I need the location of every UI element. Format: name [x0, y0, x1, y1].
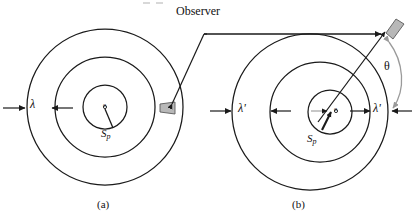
panel-b-caption: (b)	[292, 199, 305, 210]
observer-label: Observer	[176, 5, 220, 17]
observer-leader-a	[172, 34, 207, 104]
wavefront-outer-b	[232, 34, 388, 190]
theta-label: θ	[384, 60, 390, 72]
panel-a-wavelength-label: λ	[30, 98, 35, 110]
panel-a-source-pointer	[105, 109, 113, 128]
panel-a-source-label: Sp	[101, 128, 111, 141]
figure-canvas: Observer λ o Sp (a) λ' λ' o Sp θ (b)	[0, 0, 415, 223]
panel-b-center-label: o	[334, 106, 337, 112]
wavefront-middle-b	[270, 62, 370, 162]
panel-b-wavefronts	[232, 34, 388, 190]
panel-b-source-label: Sp	[307, 133, 317, 146]
panel-b-wavelength-label-right: λ'	[373, 102, 381, 114]
panel-a-center-label: o	[103, 102, 106, 108]
panel-a-source-subscript: p	[107, 132, 111, 141]
panel-b-wavelength-label-left: λ'	[238, 102, 246, 114]
detector-b[interactable]	[386, 19, 404, 39]
panel-a-caption: (a)	[97, 199, 109, 210]
panel-b-source-subscript: p	[313, 137, 317, 146]
diagram-svg	[0, 0, 415, 223]
theta-arc	[389, 42, 402, 108]
